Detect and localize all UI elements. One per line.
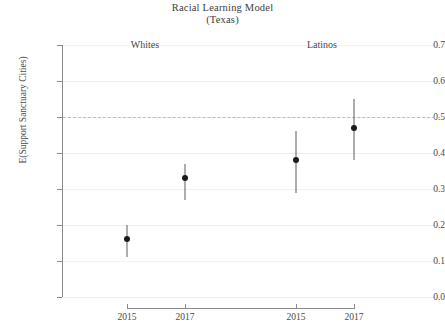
x-axis-spine — [127, 308, 354, 309]
data-point — [351, 125, 357, 131]
y-axis-tick-label: 0.3 — [399, 184, 445, 194]
y-axis-tick — [57, 153, 62, 154]
gridline — [63, 81, 440, 82]
y-axis-title: E(Support Sanctuary Cities) — [18, 0, 28, 236]
y-axis-tick-label: 0.2 — [399, 220, 445, 230]
y-axis-spine — [62, 45, 63, 297]
y-axis-tick-label: 0.0 — [399, 292, 445, 302]
y-axis-tick-label: 0.7 — [399, 40, 445, 50]
gridline — [63, 297, 440, 298]
chart-title: Racial Learning Model — [0, 2, 445, 14]
x-axis-tick — [127, 304, 128, 309]
x-axis-tick — [296, 304, 297, 309]
y-axis-tick — [57, 117, 62, 118]
y-axis-tick — [57, 261, 62, 262]
y-axis-tick-label: 0.1 — [399, 256, 445, 266]
gridline — [63, 189, 440, 190]
y-axis-tick — [57, 81, 62, 82]
y-axis-tick — [57, 225, 62, 226]
gridline — [63, 153, 440, 154]
error-bar — [185, 164, 186, 200]
x-axis-tick — [185, 304, 186, 309]
gridline — [63, 45, 440, 46]
chart-figure: Racial Learning Model (Texas) E(Support … — [0, 0, 445, 329]
x-axis-tick-label: 2017 — [176, 312, 195, 322]
gridline — [63, 261, 440, 262]
chart-subtitle: (Texas) — [0, 14, 445, 26]
y-axis-tick-label: 0.4 — [399, 148, 445, 158]
group-label-whites: Whites — [131, 39, 159, 50]
gridline — [63, 225, 440, 226]
y-axis-tick — [57, 189, 62, 190]
y-axis-tick-label: 0.6 — [399, 76, 445, 86]
reference-line — [63, 117, 440, 118]
group-label-latinos: Latinos — [307, 39, 337, 50]
x-axis-tick-label: 2017 — [345, 312, 364, 322]
x-axis-tick — [354, 304, 355, 309]
title-block: Racial Learning Model (Texas) — [0, 2, 445, 26]
data-point — [293, 157, 299, 163]
y-axis-tick — [57, 45, 62, 46]
x-axis-tick-label: 2015 — [287, 312, 306, 322]
data-point — [182, 175, 188, 181]
y-axis-tick — [57, 297, 62, 298]
x-axis-tick-label: 2015 — [118, 312, 137, 322]
data-point — [124, 236, 130, 242]
